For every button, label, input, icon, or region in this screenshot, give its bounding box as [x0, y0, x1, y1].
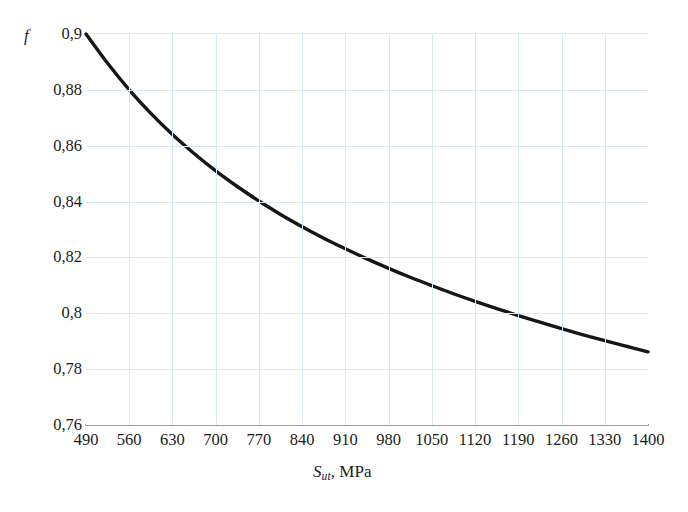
x-tick-label: 490	[74, 432, 99, 449]
gridline-vertical	[129, 34, 130, 425]
gridline-horizontal	[86, 257, 648, 258]
plot-area	[86, 34, 648, 425]
gridline-vertical	[302, 34, 303, 425]
x-axis-title: Sut, MPa	[313, 463, 371, 483]
gridline-vertical	[172, 34, 173, 425]
x-tick-label: 1400	[632, 432, 665, 449]
figure-canvas: f 0,760,780,80,820,840,860,880,9 4905606…	[0, 0, 688, 512]
x-tick-label: 1190	[502, 432, 534, 449]
gridline-vertical	[562, 34, 563, 425]
y-tick-label: 0,84	[53, 194, 82, 211]
gridline-vertical	[432, 34, 433, 425]
gridline-vertical	[518, 34, 519, 425]
series-line-f	[86, 34, 648, 352]
y-tick-label: 0,82	[53, 249, 82, 266]
x-axis-title-unit: , MPa	[331, 462, 372, 481]
gridline-vertical	[475, 34, 476, 425]
x-tick-label: 630	[160, 432, 185, 449]
x-tick-label: 980	[376, 432, 401, 449]
x-tick-label: 700	[203, 432, 228, 449]
x-tick-label: 910	[333, 432, 358, 449]
y-tick-label: 0,88	[53, 82, 82, 99]
x-tick-label: 840	[290, 432, 315, 449]
y-tick-label: 0,78	[53, 361, 82, 378]
x-axis-title-subscript: ut	[322, 470, 331, 482]
gridline-horizontal	[86, 146, 648, 147]
x-tick-label: 560	[117, 432, 142, 449]
x-tick-label: 1050	[415, 432, 448, 449]
x-axis-title-symbol: S	[313, 462, 322, 481]
gridline-vertical	[605, 34, 606, 425]
gridline-horizontal	[86, 313, 648, 314]
x-tick-label: 1330	[588, 432, 621, 449]
gridline-vertical	[259, 34, 260, 425]
y-tick-label: 0,9	[61, 26, 82, 43]
x-tick-label: 1120	[459, 432, 491, 449]
gridline-vertical	[216, 34, 217, 425]
data-curve-svg	[86, 34, 648, 425]
y-tick-label: 0,8	[61, 305, 82, 322]
gridline-vertical	[345, 34, 346, 425]
gridline-vertical	[389, 34, 390, 425]
x-tick-label: 770	[247, 432, 272, 449]
y-tick-label: 0,86	[53, 138, 82, 155]
x-tick-label: 1260	[545, 432, 578, 449]
x-tick-label-group: 4905606307007708409109801050112011901260…	[0, 432, 688, 456]
gridline-horizontal	[86, 90, 648, 91]
gridline-horizontal	[86, 202, 648, 203]
gridline-horizontal	[86, 369, 648, 370]
